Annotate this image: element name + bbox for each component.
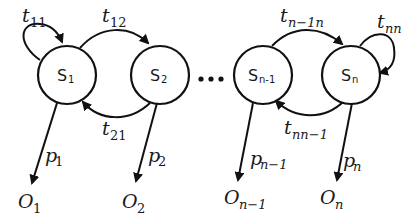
label-tnn1: t nn−1: [284, 116, 328, 142]
svg-text:S: S: [150, 66, 160, 85]
svg-text:n−1: n−1: [239, 197, 267, 212]
output-o1: O 1: [18, 190, 41, 216]
label-pn: p n: [343, 149, 361, 174]
svg-text:S: S: [341, 66, 351, 85]
svg-text:1: 1: [55, 154, 63, 169]
svg-text:t: t: [22, 4, 30, 26]
ellipsis: [198, 76, 223, 81]
state-s2: S 2: [131, 46, 189, 104]
svg-text:21: 21: [110, 128, 127, 143]
label-tnn: t nn: [377, 10, 402, 36]
state-sn: S n: [322, 46, 380, 104]
label-p1: p 1: [45, 144, 63, 169]
svg-text:S: S: [57, 66, 67, 85]
label-tn1n: t n−1n: [280, 4, 324, 30]
svg-text:1: 1: [68, 74, 74, 85]
svg-text:n−1n: n−1n: [288, 15, 324, 30]
output-on1: O n−1: [224, 186, 267, 212]
transition-tnn1-edge: [276, 101, 344, 115]
svg-text:nn−1: nn−1: [292, 127, 328, 142]
svg-text:n: n: [335, 197, 343, 212]
svg-text:O: O: [18, 190, 34, 212]
svg-text:O: O: [320, 186, 336, 208]
svg-text:nn: nn: [385, 21, 402, 36]
label-t21: t 21: [102, 117, 127, 143]
svg-text:t: t: [284, 116, 292, 138]
svg-text:O: O: [224, 186, 240, 208]
svg-text:n: n: [352, 74, 358, 85]
state-sn-1: S n-1: [234, 46, 292, 104]
svg-text:t: t: [280, 4, 288, 26]
svg-text:2: 2: [161, 74, 167, 85]
emission-p2-edge: [136, 103, 157, 181]
label-t11: t 11: [22, 4, 47, 30]
svg-text:t: t: [102, 4, 110, 26]
svg-text:n-1: n-1: [259, 74, 275, 85]
transition-t21-edge: [83, 102, 150, 117]
label-pn1: p n−1: [250, 147, 288, 172]
markov-diagram: S 1 S 2 S n-1 S n t 11 t 12 t 21 t n−1n …: [0, 0, 420, 219]
state-s1: S 1: [38, 46, 96, 104]
svg-text:t: t: [102, 117, 110, 139]
output-on: O n: [320, 186, 343, 212]
svg-text:n−1: n−1: [260, 157, 288, 172]
svg-text:t: t: [377, 10, 385, 32]
svg-text:11: 11: [30, 15, 47, 30]
label-t12: t 12: [102, 4, 127, 30]
svg-text:O: O: [122, 190, 138, 212]
svg-text:2: 2: [158, 154, 166, 169]
emission-p1-edge: [32, 103, 57, 183]
output-o2: O 2: [122, 190, 145, 216]
svg-text:n: n: [353, 159, 361, 174]
transition-t12-edge: [80, 30, 148, 48]
svg-text:S: S: [248, 66, 258, 85]
transition-tn1n-edge: [272, 30, 342, 46]
label-p2: p 2: [148, 144, 166, 169]
svg-text:12: 12: [110, 15, 127, 30]
svg-text:1: 1: [33, 201, 41, 216]
svg-text:2: 2: [137, 201, 145, 216]
